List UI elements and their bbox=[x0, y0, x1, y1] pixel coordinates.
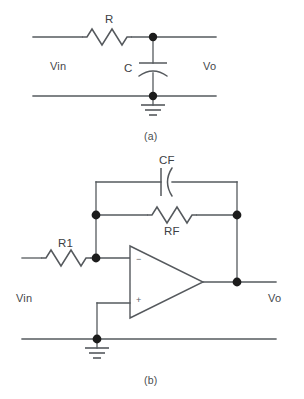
node-dot-b-feedback-left bbox=[92, 211, 101, 220]
opamp-inverting-sign: − bbox=[136, 255, 141, 264]
label-resistor-rf: RF bbox=[164, 226, 180, 238]
circuit-b-group bbox=[22, 168, 276, 358]
label-resistor-r: R bbox=[105, 14, 114, 26]
label-b-vin: Vin bbox=[16, 293, 32, 304]
resistor-r-symbol bbox=[82, 29, 132, 45]
label-capacitor-cf: CF bbox=[159, 155, 175, 167]
label-a-vin: Vin bbox=[50, 61, 66, 72]
label-resistor-r1: R1 bbox=[58, 238, 73, 250]
node-dot-a-top bbox=[149, 33, 157, 41]
caption-a: (a) bbox=[144, 131, 157, 142]
caption-b: (b) bbox=[144, 375, 157, 386]
label-capacitor-c: C bbox=[124, 63, 133, 75]
capacitor-cf-plate-right bbox=[168, 168, 173, 196]
node-dot-b-ground bbox=[93, 335, 102, 344]
resistor-r1-symbol bbox=[41, 250, 91, 266]
node-dot-a-bottom bbox=[149, 92, 157, 100]
node-dot-b-inverting-input bbox=[92, 254, 101, 263]
circuit-canvas bbox=[0, 0, 304, 399]
node-dot-b-feedback-right bbox=[233, 211, 242, 220]
opamp-noninverting-sign: + bbox=[136, 296, 141, 305]
node-dot-b-output bbox=[233, 278, 242, 287]
circuit-figure: R C Vin Vo (a) CF RF R1 − + Vin Vo (b) bbox=[0, 0, 304, 399]
label-b-vo: Vo bbox=[268, 293, 281, 304]
resistor-rf-symbol bbox=[147, 207, 197, 223]
label-a-vo: Vo bbox=[203, 61, 216, 72]
